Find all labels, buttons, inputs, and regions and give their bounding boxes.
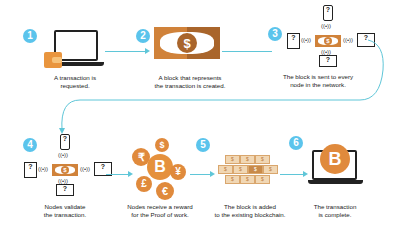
network-validate-icon: ? ((•)) ? ((•)) $ ((•)) ? ((•)) ? xyxy=(22,132,112,197)
step-6-badge: 6 xyxy=(289,136,303,150)
connector-reward-5 xyxy=(190,174,212,175)
step-5-badge: 5 xyxy=(196,138,210,152)
step-6-caption: The transaction is complete. xyxy=(305,203,365,218)
step-5-caption: The block is added to the existing block… xyxy=(205,203,295,218)
step-4-caption: Nodes validate the transaction. xyxy=(35,203,95,218)
connector-4-reward xyxy=(106,174,130,175)
laptop-bitcoin-icon: B xyxy=(308,150,363,188)
reward-caption: Nodes receive a reward for the Proof of … xyxy=(118,203,202,218)
blockchain-icon: $ $ $ $ $ $ $ $ $ $ xyxy=(215,155,285,195)
connector-5-6 xyxy=(280,174,304,175)
currency-coins-icon: $ ₹ B ¥ £ € xyxy=(130,138,190,200)
